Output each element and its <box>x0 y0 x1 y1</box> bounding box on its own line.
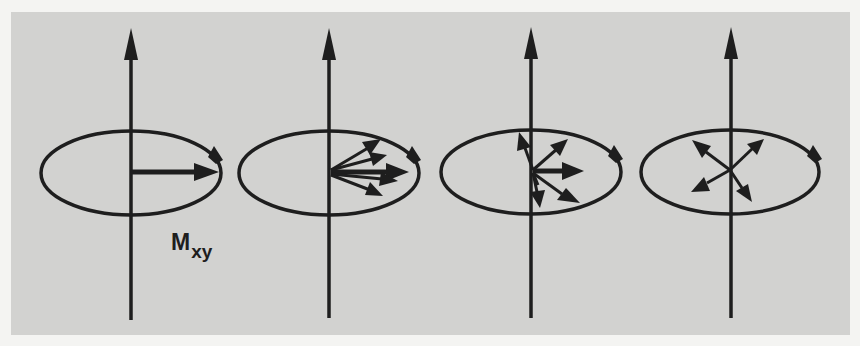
stage-2-starting-dephase <box>239 28 421 318</box>
spin-vectors <box>517 132 584 208</box>
precession-direction-arrow-icon <box>406 146 421 164</box>
z-axis-arrowhead-icon <box>322 28 336 60</box>
mxy-label-subscript: xy <box>191 241 212 262</box>
spin-vectors <box>691 139 764 202</box>
stage-1-in-phase <box>41 28 223 320</box>
z-axis-arrowhead-icon <box>124 28 138 60</box>
mxy-label: Mxy <box>171 229 212 256</box>
precession-direction-arrow-icon <box>208 146 223 164</box>
z-axis-arrowhead-icon <box>524 27 538 59</box>
stage-4-fully-dephased <box>641 27 822 318</box>
stage-3-dephasing <box>441 27 623 318</box>
mxy-label-main: M <box>171 229 190 255</box>
z-axis-arrowhead-icon <box>724 27 738 59</box>
mxy-dephasing-diagram <box>0 0 860 346</box>
precession-direction-arrow-icon <box>807 145 822 163</box>
mxy-vector-arrowhead-icon <box>194 163 219 181</box>
precession-direction-arrow-icon <box>608 145 623 163</box>
